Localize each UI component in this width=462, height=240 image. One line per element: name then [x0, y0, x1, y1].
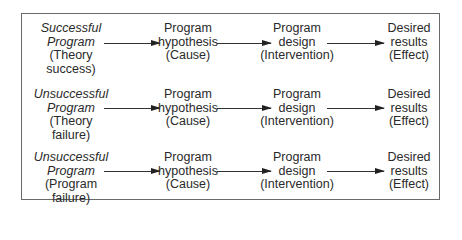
node-line: Program	[260, 151, 334, 165]
row-label-title: Successful	[41, 22, 101, 36]
node-line: hypothesis	[158, 36, 218, 50]
node-line: (Effect)	[387, 178, 430, 192]
row-label-unsuccessful-theory: Unsuccessful Program (Theory failure)	[34, 88, 108, 142]
node-line: hypothesis	[158, 102, 218, 116]
right-arrow-icon	[327, 108, 384, 109]
node-program-design: Program design (Intervention)	[260, 88, 334, 129]
node-line: (Cause)	[158, 115, 218, 129]
row-label-title: Program	[34, 102, 108, 116]
right-arrow-icon	[104, 171, 160, 172]
node-line: Desired	[387, 151, 430, 165]
row-label-note: success)	[41, 63, 101, 77]
row-label-note: (Theory	[34, 115, 108, 129]
node-line: Program	[158, 22, 218, 36]
node-line: results	[387, 36, 430, 50]
node-program-hypothesis: Program hypothesis (Cause)	[158, 22, 218, 63]
node-program-hypothesis: Program hypothesis (Cause)	[158, 151, 218, 192]
node-line: design	[260, 165, 334, 179]
node-desired-results: Desired results (Effect)	[387, 88, 430, 129]
node-line: (Effect)	[387, 115, 430, 129]
row-label-note: failure)	[34, 129, 108, 143]
node-line: design	[260, 102, 334, 116]
node-desired-results: Desired results (Effect)	[387, 151, 430, 192]
node-desired-results: Desired results (Effect)	[387, 22, 430, 63]
row-label-title: Program	[41, 36, 101, 50]
node-line: (Intervention)	[260, 49, 334, 63]
right-arrow-icon	[327, 171, 384, 172]
row-label-successful: Successful Program (Theory success)	[41, 22, 101, 76]
node-line: design	[260, 36, 334, 50]
node-line: results	[387, 165, 430, 179]
node-line: Program	[158, 88, 218, 102]
node-line: hypothesis	[158, 165, 218, 179]
row-label-note: failure)	[34, 192, 108, 206]
row-label-title: Unsuccessful	[34, 151, 108, 165]
node-line: (Cause)	[158, 178, 218, 192]
node-line: (Cause)	[158, 49, 218, 63]
node-line: (Effect)	[387, 49, 430, 63]
row-label-unsuccessful-program: Unsuccessful Program (Program failure)	[34, 151, 108, 205]
node-line: Desired	[387, 88, 430, 102]
right-arrow-icon	[104, 43, 160, 44]
row-label-title: Unsuccessful	[34, 88, 108, 102]
node-program-hypothesis: Program hypothesis (Cause)	[158, 88, 218, 129]
node-line: Desired	[387, 22, 430, 36]
node-line: Program	[158, 151, 218, 165]
node-line: Program	[260, 88, 334, 102]
row-label-note: (Theory	[41, 49, 101, 63]
row-label-title: Program	[34, 165, 108, 179]
row-label-note: (Program	[34, 178, 108, 192]
node-program-design: Program design (Intervention)	[260, 151, 334, 192]
right-arrow-icon	[104, 108, 160, 109]
node-line: results	[387, 102, 430, 116]
node-line: Program	[260, 22, 334, 36]
node-line: (Intervention)	[260, 178, 334, 192]
node-line: (Intervention)	[260, 115, 334, 129]
right-arrow-icon	[327, 43, 384, 44]
node-program-design: Program design (Intervention)	[260, 22, 334, 63]
